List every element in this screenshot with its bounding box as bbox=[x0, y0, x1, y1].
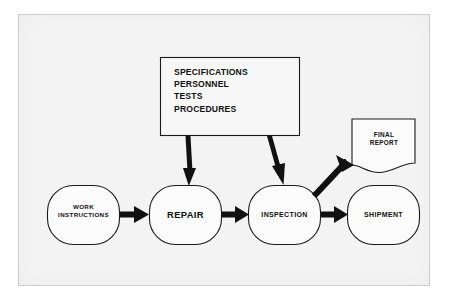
arrow-inspection-to-shipment bbox=[321, 206, 348, 223]
arrow-specs-to-repair bbox=[183, 136, 196, 186]
process-node-repair[interactable] bbox=[150, 186, 222, 245]
process-node-shipment[interactable] bbox=[348, 186, 420, 245]
document-node-final-report[interactable] bbox=[352, 119, 415, 173]
arrow-repair-to-inspection bbox=[222, 206, 249, 223]
arrow-specs-to-inspection bbox=[267, 136, 285, 185]
arrow-work-instructions-to-repair bbox=[120, 206, 149, 223]
arrow-inspection-to-final-report bbox=[314, 155, 354, 196]
process-flow-diagram bbox=[0, 0, 458, 308]
process-node-work-instructions[interactable] bbox=[48, 186, 120, 245]
process-node-inspection[interactable] bbox=[249, 186, 321, 245]
scanned-figure-page: SPECIFICATIONS PERSONNEL TESTS PROCEDURE… bbox=[0, 0, 458, 308]
specifications-box bbox=[161, 58, 300, 136]
